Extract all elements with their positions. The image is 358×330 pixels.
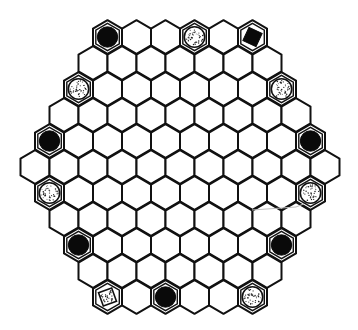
stipple-dot	[281, 90, 282, 91]
piece-black-circle-r4-c0[interactable]	[38, 127, 62, 154]
stipple-dot	[304, 194, 305, 195]
stipple-dot	[55, 190, 56, 191]
stipple-dot	[258, 301, 259, 302]
stipple-dot	[305, 190, 306, 191]
piece-black-square-r0-c5[interactable]	[241, 23, 264, 50]
stipple-dot	[84, 85, 85, 86]
stipple-dot	[84, 87, 85, 88]
stipple-dot	[49, 200, 50, 201]
stipple-dot	[44, 195, 45, 196]
stipple-dot	[80, 91, 81, 92]
stipple-dot	[47, 185, 48, 186]
stipple-dot	[278, 89, 279, 90]
stipple-dot	[287, 90, 288, 91]
stipple-dot	[57, 193, 58, 194]
piece-black-circle-r0-c0[interactable]	[96, 23, 120, 50]
stipple-dot	[198, 32, 199, 33]
stipple-dot	[280, 94, 281, 95]
piece-dotted-circle-r10-c5[interactable]	[241, 283, 264, 310]
stipple-dot	[312, 184, 313, 185]
stipple-dot	[306, 186, 307, 187]
stipple-dot	[73, 91, 74, 92]
stipple-dot	[285, 84, 286, 85]
stipple-dot	[283, 87, 284, 88]
stipple-dot	[312, 185, 314, 187]
piece-black-circle-r10-c2[interactable]	[154, 283, 178, 310]
stipple-dot	[199, 35, 200, 36]
stipple-dot	[53, 194, 54, 195]
stipple-dot	[288, 87, 289, 88]
stipple-dot	[260, 297, 261, 298]
hex-cell-r10-c1[interactable]	[122, 280, 151, 314]
stipple-dot	[81, 90, 82, 91]
stipple-dot	[80, 85, 81, 86]
stipple-dot	[285, 91, 286, 92]
piece-black-circle-r8-c7[interactable]	[270, 231, 294, 258]
stipple-dot	[79, 96, 80, 97]
stipple-dot	[48, 188, 49, 189]
stipple-dot	[256, 297, 257, 298]
piece-black-circle-r4-c9[interactable]	[299, 127, 323, 154]
piece-dotted-square-r10-c0[interactable]	[96, 283, 120, 310]
stipple-dot	[258, 293, 260, 295]
stipple-dot	[255, 300, 256, 301]
piece-dotted-circle-r2-c7[interactable]	[270, 75, 294, 102]
stipple-dot	[198, 40, 200, 42]
stipple-dot	[310, 188, 311, 189]
stipple-dot	[315, 189, 316, 190]
stipple-dot	[77, 90, 78, 91]
piece-dotted-circle-r0-c3[interactable]	[183, 23, 207, 50]
stipple-dot	[245, 294, 246, 295]
stipple-dot	[258, 296, 260, 298]
stipple-dot	[280, 90, 281, 91]
hex-cell-r10-c4[interactable]	[209, 280, 238, 314]
stipple-dot	[252, 303, 253, 304]
stipple-dot	[190, 30, 191, 31]
stipple-dot	[199, 37, 200, 38]
piece-dotted-circle-r2-c0[interactable]	[67, 75, 91, 102]
stipple-dot	[71, 86, 72, 87]
black-stone-icon	[155, 287, 175, 307]
stipple-dot	[188, 38, 189, 39]
stipple-dot	[252, 294, 253, 295]
stipple-dot	[195, 42, 196, 43]
stipple-dot	[312, 196, 313, 197]
board-cells	[21, 20, 340, 314]
stipple-dot	[288, 89, 289, 90]
stipple-dot	[42, 189, 43, 190]
stipple-dot	[45, 190, 46, 191]
stipple-dot	[248, 302, 249, 303]
stipple-dot	[70, 88, 71, 89]
stipple-dot	[289, 88, 290, 89]
stipple-dot	[305, 187, 306, 188]
stipple-dot	[277, 81, 279, 83]
stipple-dot	[191, 37, 192, 38]
stipple-dot	[53, 199, 54, 200]
stipple-dot	[278, 83, 279, 84]
piece-dotted-circle-r6-c0[interactable]	[38, 179, 62, 206]
stipple-dot	[288, 86, 289, 87]
stipple-dot	[78, 81, 79, 82]
stipple-dot	[43, 192, 44, 193]
stipple-dot	[250, 303, 251, 304]
hex-cell-r10-c3[interactable]	[180, 280, 209, 314]
stipple-dot	[85, 88, 86, 89]
stipple-dot	[55, 188, 57, 190]
stipple-dot	[249, 290, 251, 292]
stipple-dot	[190, 39, 191, 40]
stipple-dot	[198, 42, 199, 43]
stipple-dot	[84, 94, 85, 95]
stipple-dot	[281, 89, 282, 90]
stipple-dot	[250, 300, 251, 301]
stipple-dot	[315, 185, 316, 186]
stipple-dot	[196, 33, 197, 34]
stipple-dot	[49, 195, 50, 196]
piece-black-circle-r8-c0[interactable]	[67, 231, 91, 258]
stipple-dot	[281, 80, 282, 81]
piece-dotted-circle-r6-c9[interactable]	[299, 179, 323, 206]
stipple-dot	[76, 87, 77, 88]
stipple-dot	[276, 84, 277, 85]
stipple-dot	[83, 92, 84, 93]
stipple-dot	[49, 192, 50, 193]
black-stone-icon	[39, 131, 59, 151]
